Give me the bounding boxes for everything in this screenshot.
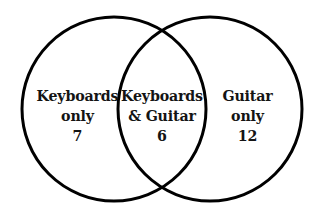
right-only-line-1: Guitar — [170, 89, 322, 103]
right-only-line-2: only — [170, 109, 322, 123]
region-label-right-only: Guitar only 12 — [170, 89, 322, 143]
venn-diagram-figure: Keyboards only 7 Keyboards & Guitar 6 Gu… — [0, 0, 322, 218]
right-only-count: 12 — [170, 129, 322, 143]
